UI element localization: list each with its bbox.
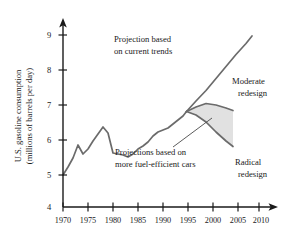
- y-axis-title-line1: U.S. gasoline consumption: [13, 69, 23, 162]
- x-axis-tick-labels: 1970 1975 1980 1985 1990 1995 2000 2005 …: [55, 216, 269, 225]
- current-trends-projection-line: [187, 36, 253, 112]
- y-tick-label-9: 9: [47, 30, 51, 40]
- annotation-fuel-efficient-line1: Projections based on: [115, 147, 187, 157]
- y-tick-label-6: 6: [47, 135, 51, 145]
- annotation-current-trends-line2: on current trends: [114, 46, 173, 56]
- annotation-radical-redesign: Radical redesign: [235, 157, 268, 179]
- annotation-moderate-line1: Moderate: [232, 76, 265, 86]
- annotation-radical-line1: Radical: [235, 157, 262, 167]
- y-tick-label-5: 5: [47, 170, 51, 180]
- annotation-fuel-efficient-line2: more fuel-efficient cars: [115, 159, 196, 169]
- annotation-moderate-redesign: Moderate redesign: [232, 76, 268, 98]
- fuel-efficient-leader-line: [173, 118, 212, 147]
- x-tick-label-1970: 1970: [55, 216, 71, 225]
- gasoline-consumption-chart: 9 8 7 6 5 4 1970 1975 1980 1985 1990 19: [0, 0, 293, 239]
- annotation-fuel-efficient: Projections based on more fuel-efficient…: [115, 147, 196, 169]
- y-axis-title-line2: (millions of barrels per day): [24, 68, 34, 165]
- chart-canvas: 9 8 7 6 5 4 1970 1975 1980 1985 1990 19: [0, 0, 293, 239]
- y-tick-label-4: 4: [47, 202, 52, 212]
- y-axis-tick-labels: 9 8 7 6 5 4: [47, 30, 52, 212]
- y-tick-label-7: 7: [47, 100, 51, 110]
- x-tick-label-1990: 1990: [155, 216, 171, 225]
- annotation-current-trends: Projection based on current trends: [114, 34, 173, 56]
- x-tick-label-2010: 2010: [253, 216, 269, 225]
- y-tick-label-8: 8: [47, 65, 51, 75]
- x-tick-label-2005: 2005: [230, 216, 246, 225]
- x-tick-label-1980: 1980: [105, 216, 121, 225]
- annotation-moderate-line2: redesign: [238, 88, 268, 98]
- x-tick-label-1975: 1975: [80, 216, 96, 225]
- y-axis-title: U.S. gasoline consumption (millions of b…: [13, 68, 34, 165]
- x-tick-label-2000: 2000: [205, 216, 221, 225]
- x-tick-label-1985: 1985: [130, 216, 146, 225]
- x-tick-label-1995: 1995: [180, 216, 196, 225]
- annotation-current-trends-line1: Projection based: [114, 34, 172, 44]
- annotation-radical-line2: redesign: [238, 169, 268, 179]
